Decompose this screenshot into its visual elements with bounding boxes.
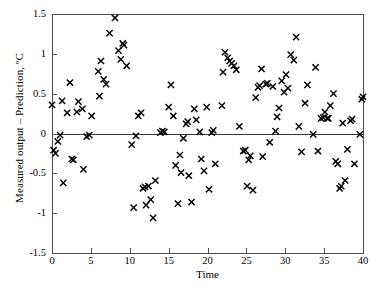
plot-canvas xyxy=(0,0,378,288)
scatter-plot-figure: Measured output – Prediction, ºC Time -1… xyxy=(0,0,378,288)
